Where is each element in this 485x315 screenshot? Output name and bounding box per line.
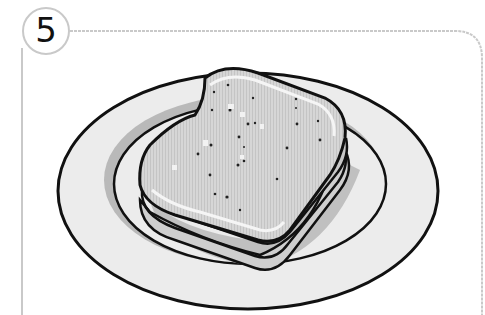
instruction-panel: 5 (0, 0, 485, 315)
panel-illustration (0, 0, 485, 315)
step-number-badge: 5 (22, 7, 70, 55)
step-number: 5 (35, 13, 57, 47)
